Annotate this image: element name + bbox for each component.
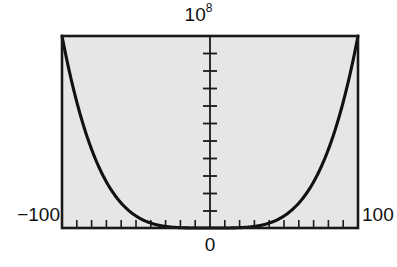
plot-area <box>0 0 397 267</box>
x-axis-min-label: −100 <box>2 204 60 226</box>
x-axis-origin-label: 0 <box>62 234 358 256</box>
y-axis-max-label: 108 <box>0 4 397 26</box>
y-axis-max-exponent: 8 <box>206 1 213 15</box>
x-axis-max-label: 100 <box>362 204 394 226</box>
y-axis-max-base: 10 <box>185 4 206 25</box>
chart-figure: 108 −100 100 0 <box>0 0 397 267</box>
